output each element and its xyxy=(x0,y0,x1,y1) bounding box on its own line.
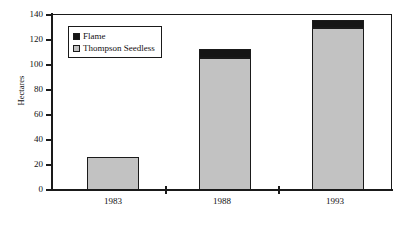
y-tick-label-40: 40 xyxy=(34,135,43,144)
y-tick-40 xyxy=(46,139,53,141)
legend-label-flame: Flame xyxy=(83,31,106,41)
flame-swatch-icon xyxy=(73,33,80,40)
x-tick-label-1988: 1988 xyxy=(192,196,252,206)
bar-segment-thompson-seedless-1983[interactable] xyxy=(87,157,139,190)
bar-segment-flame-1993[interactable] xyxy=(312,20,364,28)
y-tick-label-100: 100 xyxy=(30,60,44,69)
bar-group-1988[interactable] xyxy=(199,49,251,190)
bar-segment-flame-1988[interactable] xyxy=(199,49,251,58)
x-separator-tick-2 xyxy=(278,186,280,194)
y-tick-60 xyxy=(46,114,53,116)
y-tick-label-0: 0 xyxy=(39,185,44,194)
legend-item-flame[interactable]: Flame xyxy=(73,30,155,42)
legend-label-thompson-seedless: Thompson Seedless xyxy=(83,43,155,53)
y-axis-title: Hectares xyxy=(17,61,26,121)
y-tick-label-140: 140 xyxy=(30,10,44,19)
x-tick-label-1983: 1983 xyxy=(83,196,143,206)
bar-group-1993[interactable] xyxy=(312,21,364,190)
thompson-seedless-swatch-icon xyxy=(73,45,80,52)
y-tick-label-120: 120 xyxy=(30,35,44,44)
y-tick-140 xyxy=(46,14,53,16)
x-separator-tick-1 xyxy=(165,186,167,194)
y-tick-label-80: 80 xyxy=(34,85,43,94)
bar-segment-thompson-seedless-1993[interactable] xyxy=(312,28,364,190)
bar-group-1983[interactable] xyxy=(87,157,139,190)
y-tick-20 xyxy=(46,164,53,166)
bar-segment-thompson-seedless-1988[interactable] xyxy=(199,58,251,190)
x-tick-label-1993: 1993 xyxy=(305,196,365,206)
y-tick-label-60: 60 xyxy=(34,110,43,119)
y-tick-80 xyxy=(46,89,53,91)
y-tick-label-20: 20 xyxy=(34,160,43,169)
bar-chart-figure: 0 20 40 60 80 100 120 140 Hectares 1983 … xyxy=(0,0,415,229)
y-tick-100 xyxy=(46,64,53,66)
y-tick-120 xyxy=(46,39,53,41)
legend-item-thompson-seedless[interactable]: Thompson Seedless xyxy=(73,42,155,54)
y-tick-0 xyxy=(46,189,53,191)
legend: Flame Thompson Seedless xyxy=(68,26,162,58)
